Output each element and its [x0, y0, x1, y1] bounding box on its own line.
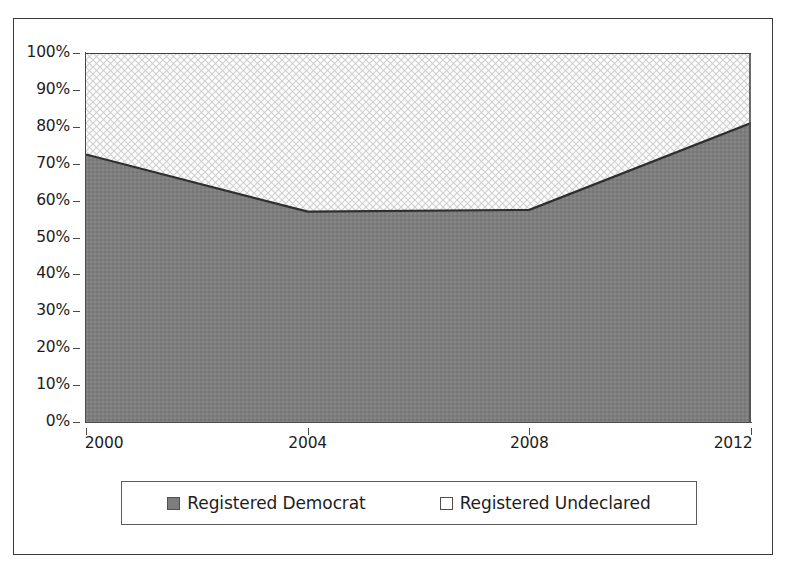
legend-swatch-icon — [167, 497, 180, 510]
x-axis-line — [85, 422, 752, 423]
x-axis-tick-mark — [86, 428, 87, 435]
legend-swatch-icon — [440, 497, 453, 510]
y-axis-tick-label: 100% — [26, 45, 70, 61]
y-axis: 100%90%80%70%60%50%40%30%20%10%0% — [14, 53, 80, 422]
legend-label: Registered Undeclared — [460, 495, 651, 512]
y-axis-tick-mark — [73, 274, 80, 275]
x-axis: 2000200420082012 — [86, 428, 751, 458]
legend-label: Registered Democrat — [187, 495, 365, 512]
y-axis-tick-mark — [73, 348, 80, 349]
y-axis-tick-label: 30% — [36, 304, 70, 320]
x-axis-tick-mark — [751, 428, 752, 435]
x-axis-tick-label: 2012 — [714, 436, 753, 452]
y-axis-tick-mark — [73, 201, 80, 202]
y-axis-line — [85, 52, 86, 423]
legend-entry[interactable]: Registered Democrat — [167, 495, 365, 512]
y-axis-tick-mark — [73, 422, 80, 423]
y-axis-tick-label: 50% — [36, 230, 70, 246]
y-axis-tick-label: 40% — [36, 267, 70, 283]
chart-legend: Registered DemocratRegistered Undeclared — [121, 481, 697, 525]
chart-figure-frame: 100%90%80%70%60%50%40%30%20%10%0% 200 — [13, 18, 773, 555]
x-axis-tick-mark — [529, 428, 530, 435]
y-axis-tick-mark — [73, 53, 80, 54]
legend-entry[interactable]: Registered Undeclared — [440, 495, 651, 512]
y-axis-tick-label: 0% — [46, 414, 70, 430]
y-axis-tick-label: 80% — [36, 119, 70, 135]
y-axis-tick-mark — [73, 127, 80, 128]
y-axis-tick-label: 60% — [36, 193, 70, 209]
y-axis-tick-mark — [73, 311, 80, 312]
y-axis-tick-mark — [73, 90, 80, 91]
y-axis-tick-mark — [73, 238, 80, 239]
stacked-area-plot — [86, 53, 751, 422]
x-axis-tick-label: 2004 — [288, 436, 327, 452]
y-axis-tick-label: 70% — [36, 156, 70, 172]
x-axis-tick-mark — [308, 428, 309, 435]
x-axis-tick-label: 2000 — [85, 436, 124, 452]
y-axis-tick-mark — [73, 164, 80, 165]
y-axis-tick-label: 90% — [36, 82, 70, 98]
plot-area — [86, 53, 751, 422]
y-axis-tick-label: 10% — [36, 377, 70, 393]
x-axis-tick-label: 2008 — [510, 436, 549, 452]
y-axis-tick-label: 20% — [36, 340, 70, 356]
y-axis-tick-mark — [73, 385, 80, 386]
